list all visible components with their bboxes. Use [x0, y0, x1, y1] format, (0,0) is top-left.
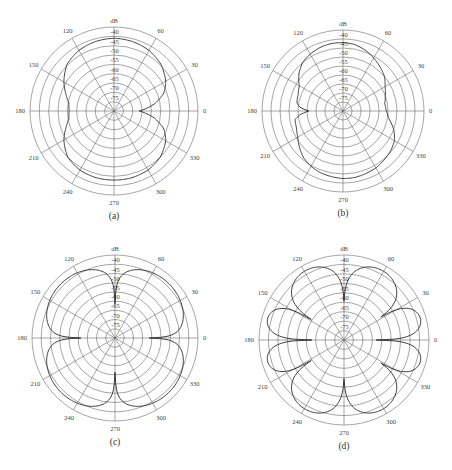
radial-tick-label: -75 [110, 94, 119, 101]
angle-tick-label: 60 [157, 27, 164, 34]
radial-tick-label: -45 [339, 40, 348, 47]
radial-tick-label: -50 [110, 47, 119, 54]
panel-caption: (c) [110, 437, 121, 448]
angle-tick-label: 150 [260, 62, 270, 69]
angle-tick-label: 270 [339, 429, 349, 436]
radial-tick-label: -75 [339, 94, 348, 101]
radial-tick-label: -65 [110, 75, 119, 82]
angle-tick-label: 240 [63, 188, 73, 195]
radial-tick-label: -70 [340, 313, 349, 320]
radial-tick-label: -45 [111, 266, 120, 273]
angle-tick-label: 240 [292, 418, 302, 425]
radial-tick-label: -55 [111, 284, 120, 291]
angle-tick-label: 180 [247, 107, 257, 114]
angle-tick-label: 300 [386, 418, 396, 425]
polar-plot-a: -40-45-50-55-60-65-70-75dB03060120150180… [15, 17, 206, 222]
polar-plot-c: -40-45-50-55-60-65-70-75dB03060120150180… [17, 245, 206, 448]
radial-tick-label: -70 [110, 84, 119, 91]
angle-tick-label: 210 [30, 380, 40, 387]
angle-tick-label: 150 [258, 289, 268, 296]
angle-tick-label: 330 [190, 154, 200, 161]
angle-tick-label: 240 [293, 185, 303, 192]
polar-plot-b: -40-45-50-55-60-65-70-75dB03060120150180… [247, 20, 432, 219]
panel-caption: (d) [338, 441, 349, 452]
angle-tick-label: 120 [293, 29, 303, 36]
radial-tick-label: -55 [339, 58, 348, 65]
radial-tick-label: -60 [110, 66, 119, 73]
angle-tick-label: 330 [421, 383, 431, 390]
angle-tick-label: 120 [63, 27, 73, 34]
radial-tick-label: -75 [111, 321, 120, 328]
radial-tick-label: -55 [110, 56, 119, 63]
angle-tick-label: 30 [422, 289, 429, 296]
unit-label: dB [340, 245, 348, 252]
radial-tick-label: -40 [111, 256, 120, 263]
panel-caption: (b) [337, 208, 348, 219]
angle-tick-label: 270 [110, 425, 120, 432]
angle-tick-label: 210 [258, 383, 268, 390]
angle-tick-label: 210 [29, 154, 39, 161]
radial-tick-label: -40 [110, 28, 119, 35]
angle-tick-label: 120 [292, 255, 302, 262]
radial-tick-label: -65 [340, 304, 349, 311]
angle-tick-label: 30 [191, 288, 198, 295]
angle-tick-label: 180 [244, 336, 254, 343]
polar-plot-d: -40-45-50-55-60-65-70-75dB03060120150180… [244, 245, 437, 452]
angle-tick-label: 120 [64, 255, 74, 262]
angle-tick-label: 300 [156, 414, 166, 421]
angle-tick-label: 60 [388, 255, 395, 262]
angle-tick-label: 30 [418, 62, 425, 69]
radial-tick-label: -70 [339, 85, 348, 92]
radial-tick-label: -55 [340, 285, 349, 292]
angle-tick-label: 150 [29, 61, 39, 68]
radial-tick-label: -40 [340, 256, 349, 263]
angle-tick-label: 60 [158, 255, 165, 262]
unit-label: dB [339, 20, 347, 27]
radial-tick-label: -50 [339, 49, 348, 56]
radial-tick-label: -70 [111, 312, 120, 319]
angle-tick-label: 270 [338, 196, 348, 203]
angle-tick-label: 330 [190, 380, 200, 387]
radial-tick-label: -75 [340, 323, 349, 330]
angle-tick-label: 0 [203, 334, 206, 341]
angle-tick-label: 0 [203, 107, 206, 114]
angle-tick-label: 240 [64, 414, 74, 421]
angle-tick-label: 180 [17, 334, 27, 341]
angle-tick-label: 30 [191, 61, 198, 68]
radial-tick-label: -65 [339, 76, 348, 83]
radial-tick-label: -40 [339, 31, 348, 38]
angle-tick-label: 0 [429, 107, 432, 114]
angle-tick-label: 0 [434, 336, 437, 343]
angle-tick-label: 270 [109, 199, 119, 206]
radial-tick-label: -65 [111, 302, 120, 309]
radial-tick-label: -45 [340, 266, 349, 273]
angle-tick-label: 60 [385, 29, 392, 36]
panel-caption: (a) [109, 211, 120, 222]
polar-figure: -40-45-50-55-60-65-70-75dB03060120150180… [0, 0, 452, 470]
angle-tick-label: 300 [383, 185, 393, 192]
angle-tick-label: 330 [416, 152, 426, 159]
angle-tick-label: 180 [15, 107, 25, 114]
angle-tick-label: 300 [156, 188, 166, 195]
radial-tick-label: -60 [339, 67, 348, 74]
unit-label: dB [111, 245, 119, 252]
angle-tick-label: 150 [30, 288, 40, 295]
unit-label: dB [110, 17, 118, 24]
angle-tick-label: 210 [260, 152, 270, 159]
